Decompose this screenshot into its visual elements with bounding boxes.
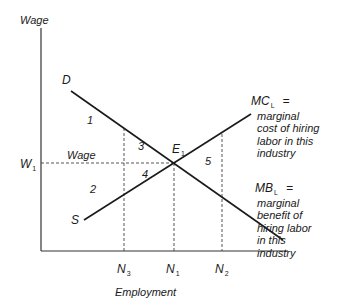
n3-main: N	[117, 262, 126, 276]
mb-line: industry	[257, 247, 311, 260]
region-5-label: 5	[205, 155, 211, 167]
n3-sub: 3	[127, 270, 131, 277]
mb-line: marginal	[257, 197, 311, 210]
mc-eq: =	[283, 94, 290, 108]
w1-label: W1	[20, 158, 36, 172]
mc-line: marginal	[257, 110, 319, 123]
mb-line: in this	[257, 234, 311, 247]
mb-line: benefit of	[257, 209, 311, 222]
mb-annotation: MBL= marginal benefit of hiring labor in…	[255, 182, 311, 260]
mc-symbol: MC	[251, 94, 270, 108]
n3-label: N3	[117, 263, 131, 277]
w1-main: W	[20, 157, 31, 171]
n1-main: N	[166, 262, 175, 276]
wage-line-label: Wage	[67, 149, 96, 161]
mc-sub: L	[271, 102, 275, 109]
x-axis-label: Employment	[115, 286, 176, 298]
supply-curve	[84, 114, 251, 220]
mc-line: cost of hiring	[257, 122, 319, 135]
n2-main: N	[215, 262, 224, 276]
equilibrium-sub: 1	[181, 150, 185, 157]
mb-symbol: MB	[255, 181, 273, 195]
n1-sub: 1	[176, 270, 180, 277]
region-2-label: 2	[90, 183, 96, 195]
supply-label: S	[71, 214, 79, 226]
mc-line: industry	[257, 147, 319, 160]
mb-line: hiring labor	[257, 222, 311, 235]
mc-line: labor in this	[257, 135, 319, 148]
equilibrium-label: E1	[172, 143, 185, 157]
w1-sub: 1	[32, 165, 36, 172]
equilibrium-main: E	[172, 142, 180, 156]
region-3-label: 3	[138, 140, 144, 152]
y-axis-label: Wage	[20, 14, 49, 26]
mb-eq: =	[286, 181, 293, 195]
mc-annotation: MCL= marginal cost of hiring labor in th…	[251, 95, 319, 160]
region-1-label: 1	[87, 114, 93, 126]
demand-label: D	[62, 74, 71, 86]
n2-sub: 2	[225, 270, 229, 277]
mb-sub: L	[274, 189, 278, 196]
region-4-label: 4	[142, 168, 148, 180]
n2-label: N2	[215, 263, 229, 277]
n1-label: N1	[166, 263, 180, 277]
